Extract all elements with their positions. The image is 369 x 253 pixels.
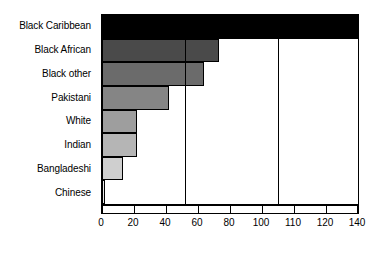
bar-indian [102, 133, 137, 157]
x-axis-tick-label: 100 [253, 216, 270, 230]
category-axis: Black Caribbean Black African Black othe… [0, 14, 96, 205]
x-axis-tick-label: 20 [127, 216, 138, 230]
bar-chart: Black Caribbean Black African Black othe… [0, 0, 369, 253]
x-axis-tick [357, 206, 358, 214]
bar-row [102, 110, 358, 134]
bar-chinese [102, 180, 105, 204]
reference-line [185, 15, 186, 204]
reference-line [278, 15, 279, 204]
x-axis-tick [102, 206, 103, 214]
bar-pakistani [102, 86, 169, 110]
x-axis-tick-label: 120 [317, 216, 334, 230]
x-axis-tick [262, 206, 263, 214]
bar-row [102, 133, 358, 157]
category-label: Bangladeshi [0, 157, 96, 181]
x-axis-tick-label: 80 [223, 216, 234, 230]
x-axis-tick-label: 40 [159, 216, 170, 230]
x-axis-tick-label: 0 [98, 216, 104, 230]
bar-white [102, 110, 137, 134]
category-label: Pakistani [0, 86, 96, 110]
category-label: Black African [0, 38, 96, 62]
category-label: Black Caribbean [0, 14, 96, 38]
bar-bangladeshi [102, 157, 123, 181]
x-axis-tick [294, 206, 295, 214]
bar-row [102, 157, 358, 181]
plot-area [101, 14, 359, 205]
x-axis-tick [326, 206, 327, 214]
bar-black-caribbean [102, 15, 358, 39]
bar-row [102, 62, 358, 86]
value-axis [101, 205, 359, 214]
category-label: Black other [0, 62, 96, 86]
category-label: Chinese [0, 181, 96, 205]
x-axis-tick [134, 206, 135, 214]
value-axis-labels: 020406080100110120140 [101, 216, 359, 230]
bar-row [102, 86, 358, 110]
bar-black-other [102, 62, 204, 86]
bar-row [102, 15, 358, 39]
category-label: White [0, 110, 96, 134]
x-axis-tick-label: 140 [349, 216, 366, 230]
x-axis-tick-label: 110 [285, 216, 301, 230]
x-axis-tick [230, 206, 231, 214]
category-label: Indian [0, 133, 96, 157]
x-axis-tick-label: 60 [191, 216, 202, 230]
bar-row [102, 180, 358, 204]
x-axis-tick [166, 206, 167, 214]
bar-black-african [102, 39, 219, 63]
bar-row [102, 39, 358, 63]
x-axis-tick [198, 206, 199, 214]
bars-layer [102, 15, 358, 204]
